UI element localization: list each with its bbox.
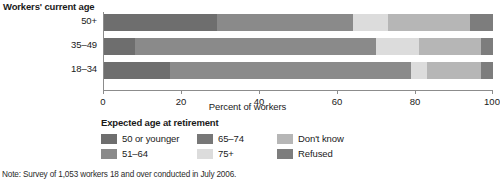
bar-segment	[376, 38, 419, 55]
legend-item-label: 75+	[218, 148, 234, 159]
chart-note: Note: Survey of 1,053 workers 18 and ove…	[2, 170, 236, 179]
category-label-group: 50+ 35–49 18–34	[0, 0, 103, 90]
bar-segment	[470, 14, 493, 31]
bar-segment	[388, 14, 470, 31]
legend: Expected age at retirement 50 or younger…	[101, 117, 401, 161]
x-tick-60	[337, 91, 338, 94]
legend-swatch-icon	[277, 149, 293, 159]
legend-swatch-icon	[101, 149, 117, 159]
table-row	[104, 14, 493, 31]
bar-segment	[217, 14, 353, 31]
x-axis-title: Percent of workers	[0, 101, 495, 112]
x-tick-80	[415, 91, 416, 94]
plot-area: 0 20 40 60 80 100	[103, 12, 493, 90]
bar-segment	[419, 38, 481, 55]
x-tick-40	[259, 91, 260, 94]
legend-swatch-icon	[277, 134, 293, 144]
bar-segment	[135, 38, 376, 55]
category-label-18-34: 18–34	[71, 63, 97, 74]
table-row	[104, 62, 493, 79]
legend-swatch-icon	[197, 134, 213, 144]
legend-item-label: 51–64	[122, 148, 148, 159]
category-label-35-49: 35–49	[71, 39, 97, 50]
x-tick-20	[181, 91, 182, 94]
bar-segment	[427, 62, 481, 79]
legend-swatch-icon	[197, 149, 213, 159]
legend-item-label: 65–74	[218, 133, 244, 144]
x-tick-100	[492, 91, 493, 94]
legend-item-50-or-younger: 50 or younger	[101, 133, 197, 144]
x-tick-0	[103, 91, 104, 94]
legend-item-75-plus: 75+	[197, 148, 277, 159]
legend-items: 50 or younger 65–74 Don't know 51–64 75+…	[101, 131, 401, 161]
bar-segment	[104, 38, 135, 55]
category-label-50-plus: 50+	[81, 15, 97, 26]
bar-segment	[481, 38, 493, 55]
legend-item-refused: Refused	[277, 148, 401, 159]
legend-item-label: Refused	[298, 148, 333, 159]
legend-item-65-74: 65–74	[197, 133, 277, 144]
legend-swatch-icon	[101, 134, 117, 144]
legend-item-51-64: 51–64	[101, 148, 197, 159]
legend-title: Expected age at retirement	[101, 117, 401, 128]
bar-segment	[170, 62, 411, 79]
bar-segment	[104, 14, 217, 31]
legend-item-label: 50 or younger	[122, 133, 179, 144]
bar-segment	[353, 14, 388, 31]
bar-segment	[104, 62, 170, 79]
legend-item-dont-know: Don't know	[277, 133, 401, 144]
x-axis-line	[103, 90, 493, 91]
legend-item-label: Don't know	[298, 133, 344, 144]
bar-segment	[411, 62, 427, 79]
bar-segment	[481, 62, 493, 79]
table-row	[104, 38, 493, 55]
